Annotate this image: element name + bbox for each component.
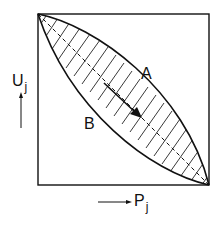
y-axis-label: Uj	[12, 73, 26, 89]
diagram-canvas	[0, 0, 224, 231]
x-axis-symbol: P	[134, 192, 145, 209]
y-axis-subscript: j	[25, 80, 28, 94]
x-axis-arrowhead	[126, 200, 132, 204]
y-axis-symbol: U	[12, 72, 24, 89]
curve-a-label: A	[141, 66, 152, 82]
diagonal-dashed	[38, 14, 209, 185]
curve-b-label: B	[84, 116, 95, 132]
y-axis-arrowhead	[19, 92, 23, 98]
x-axis-subscript: j	[146, 200, 149, 214]
x-axis-label: Pj	[134, 193, 147, 209]
